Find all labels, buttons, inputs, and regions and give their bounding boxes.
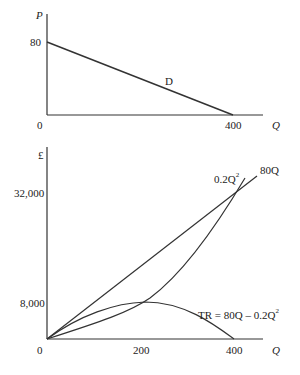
y-tick-32000: 32,000: [14, 188, 44, 199]
demand-label: D: [165, 76, 173, 87]
top-origin-label: 0: [37, 120, 43, 131]
demand-line: [47, 42, 233, 115]
top-x-axis-label: Q: [272, 120, 280, 131]
linear-label: 80Q: [260, 165, 279, 176]
top-y-axis-label: P: [36, 10, 43, 21]
x-tick-200: 200: [133, 345, 150, 356]
bottom-y-axis-label: £: [38, 150, 44, 161]
quadratic-label: 0.2Q2: [214, 174, 239, 185]
top-x-tick: 400: [225, 120, 242, 131]
top-y-tick: 80: [30, 37, 41, 48]
bottom-x-axis-label: Q: [272, 345, 280, 356]
x-tick-400: 400: [226, 345, 243, 356]
bottom-origin-label: 0: [37, 345, 43, 356]
tr-label: TR = 80Q – 0.2Q2: [198, 310, 279, 321]
y-tick-8000: 8,000: [20, 298, 45, 309]
